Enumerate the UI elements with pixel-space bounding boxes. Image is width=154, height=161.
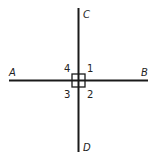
angle-label-1: 1 xyxy=(87,63,93,74)
point-label-a: A xyxy=(8,67,16,78)
point-label-c: C xyxy=(83,9,90,20)
perpendicular-lines-diagram: C D A B 1 2 3 4 xyxy=(0,0,154,161)
point-label-d: D xyxy=(83,142,91,153)
angle-label-3: 3 xyxy=(64,89,70,100)
point-label-b: B xyxy=(141,67,148,78)
angle-label-4: 4 xyxy=(64,63,70,74)
angle-label-2: 2 xyxy=(87,89,93,100)
